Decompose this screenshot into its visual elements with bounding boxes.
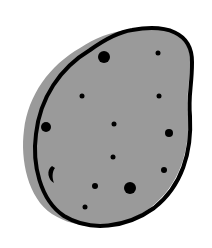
potato-icon xyxy=(0,0,212,248)
potato-illustration xyxy=(0,0,212,248)
